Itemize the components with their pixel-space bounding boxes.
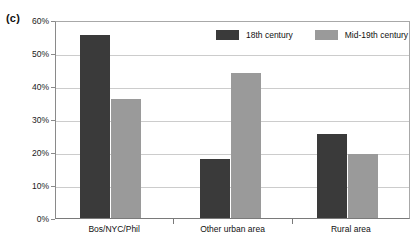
- y-axis-tick-label: 30%: [5, 115, 49, 125]
- bars-layer: [56, 22, 409, 218]
- y-axis-tick-mark: [51, 219, 55, 220]
- legend-item-mid-19th-century: Mid-19th century: [315, 30, 408, 40]
- bar-chart-figure: (c) 18th century Mid-19th century 0%10%2…: [0, 0, 414, 242]
- bar-rural-area-18th-century: [317, 134, 347, 218]
- legend-label-mid-19th-century: Mid-19th century: [345, 30, 408, 40]
- bar-other-urban-area-mid-19th-century: [231, 73, 261, 218]
- x-axis-group-tick: [292, 219, 293, 224]
- legend-swatch-light-icon: [315, 30, 338, 40]
- plot-area: 18th century Mid-19th century: [55, 21, 410, 219]
- y-axis-tick-label: 40%: [5, 82, 49, 92]
- panel-label: (c): [6, 12, 20, 24]
- y-axis-tick-label: 20%: [5, 148, 49, 158]
- chart-legend: 18th century Mid-19th century: [216, 30, 408, 40]
- bar-rural-area-mid-19th-century: [348, 154, 378, 218]
- legend-swatch-dark-icon: [216, 30, 239, 40]
- bar-bos-nyc-phil-mid-19th-century: [111, 99, 141, 218]
- y-axis-tick-label: 0%: [5, 214, 49, 224]
- x-axis-label-rural-area: Rural area: [331, 224, 371, 234]
- x-axis-group-tick: [173, 219, 174, 224]
- x-axis-label-bos-nyc-phil: Bos/NYC/Phil: [88, 224, 140, 234]
- bar-bos-nyc-phil-18th-century: [80, 35, 110, 218]
- y-axis-tick-label: 10%: [5, 181, 49, 191]
- x-axis-label-other-urban-area: Other urban area: [200, 224, 265, 234]
- bar-other-urban-area-18th-century: [200, 159, 230, 218]
- y-axis-tick-label: 50%: [5, 49, 49, 59]
- legend-label-18th-century: 18th century: [246, 30, 293, 40]
- legend-item-18th-century: 18th century: [216, 30, 293, 40]
